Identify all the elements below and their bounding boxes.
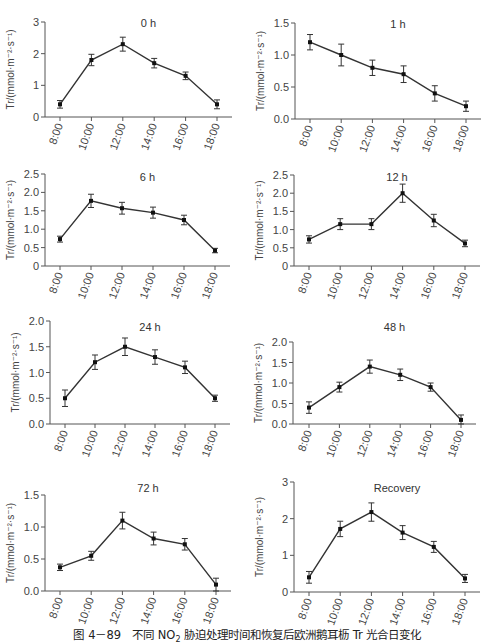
data-line: [60, 201, 215, 251]
x-tick-label: 16:00: [170, 122, 191, 152]
x-tick-label: 18:00: [449, 597, 470, 627]
x-tick-label: 8:00: [295, 271, 314, 295]
y-tick-label: 0.0: [24, 585, 39, 597]
x-tick-label: 10:00: [75, 271, 96, 301]
data-line: [309, 367, 461, 420]
data-point-marker: [459, 418, 463, 422]
x-tick-label: 10:00: [324, 429, 345, 459]
chart-panel: 00.51.01.52.02.5Tr/(mmol·m⁻²·s⁻¹)8:0010:…: [5, 168, 230, 301]
data-line: [309, 193, 465, 243]
y-tick-label: 0.5: [274, 81, 289, 93]
chart-panel: 0.00.51.01.52.0Tr/(mmol·m⁻²·s⁻¹)8:0010:0…: [10, 315, 230, 459]
y-tick-label: 1.0: [24, 223, 39, 235]
x-tick-label: 8:00: [295, 429, 314, 453]
data-point-marker: [63, 396, 67, 400]
y-tick-label: 2.0: [273, 187, 288, 199]
y-tick-label: 1.5: [272, 357, 287, 369]
x-tick-label: 16:00: [169, 596, 190, 626]
data-point-marker: [184, 74, 188, 78]
y-tick-label: 2.5: [273, 169, 288, 181]
data-point-marker: [307, 406, 311, 410]
y-tick-label: 0: [282, 260, 288, 272]
data-line: [310, 42, 466, 106]
x-tick-label: 8:00: [46, 271, 65, 295]
data-point-marker: [215, 102, 219, 106]
data-point-marker: [151, 211, 155, 215]
data-point-marker: [152, 61, 156, 65]
y-tick-label: 3: [33, 16, 39, 28]
y-tick-label: 2.0: [272, 336, 287, 348]
x-tick-label: 14:00: [138, 122, 159, 152]
y-tick-label: 1.0: [274, 49, 289, 61]
y-tick-label: 0: [33, 111, 39, 123]
y-tick-label: 2.5: [24, 168, 39, 180]
data-point-marker: [120, 519, 124, 523]
figure-caption: 图 4－89 不同 NO2 胁迫处理时间和恢复后欧洲鹅耳枥 Tr 光合日变化: [0, 626, 495, 644]
x-tick-label: 14:00: [387, 271, 408, 301]
x-tick-label: 16:00: [415, 429, 436, 459]
x-tick-label: 8:00: [296, 124, 315, 148]
panel-title: 12 h: [386, 171, 407, 183]
x-tick-label: 18:00: [445, 429, 466, 459]
x-tick-label: 14:00: [138, 596, 159, 626]
x-tick-label: 18:00: [201, 122, 222, 152]
data-point-marker: [152, 537, 156, 541]
y-tick-label: 1.5: [273, 205, 288, 217]
y-axis-label: Tr/(mmol·m⁻²·s⁻¹): [10, 332, 21, 412]
panel-title: 6 h: [140, 171, 155, 183]
data-point-marker: [401, 191, 405, 195]
data-point-marker: [183, 542, 187, 546]
data-point-marker: [464, 104, 468, 108]
x-tick-label: 12:00: [356, 271, 377, 301]
y-tick-label: 0.0: [29, 418, 44, 430]
x-tick-label: 12:00: [107, 122, 128, 152]
chart-panel: 0.00.51.01.52.0Tr/(mmol·m⁻²·s⁻¹)8:0010:0…: [253, 321, 476, 459]
panel-title: Recovery: [374, 482, 421, 494]
panel-title: 0 h: [141, 17, 156, 29]
y-tick-label: 0.5: [273, 242, 288, 254]
x-tick-label: 10:00: [325, 124, 346, 154]
y-tick-label: 0: [33, 260, 39, 272]
data-point-marker: [368, 365, 372, 369]
data-point-marker: [89, 199, 93, 203]
data-point-marker: [308, 40, 312, 44]
y-tick-label: 2.0: [24, 186, 39, 198]
x-tick-label: 16:00: [419, 124, 440, 154]
x-tick-label: 16:00: [168, 271, 189, 301]
caption-text-b: 胁迫处理时间和恢复后欧洲鹅耳枥 Tr 光合日变化: [180, 628, 421, 642]
y-tick-label: 0: [282, 586, 288, 598]
data-point-marker: [89, 58, 93, 62]
x-tick-label: 14:00: [137, 271, 158, 301]
x-tick-label: 18:00: [200, 596, 221, 626]
x-tick-label: 12:00: [109, 429, 130, 459]
y-axis-label: Tr/(mmol·m⁻²·s⁻¹): [254, 180, 265, 260]
data-point-marker: [369, 222, 373, 226]
data-point-marker: [307, 237, 311, 241]
data-point-marker: [153, 355, 157, 359]
x-tick-label: 18:00: [449, 271, 470, 301]
y-tick-label: 0.5: [24, 553, 39, 565]
data-point-marker: [338, 222, 342, 226]
data-point-marker: [58, 237, 62, 241]
y-tick-label: 0.0: [274, 113, 289, 125]
x-tick-label: 18:00: [199, 429, 220, 459]
y-tick-label: 1.5: [29, 341, 44, 353]
x-tick-label: 18:00: [450, 124, 471, 154]
panel-title: 72 h: [137, 482, 158, 494]
x-tick-label: 14:00: [387, 597, 408, 627]
data-point-marker: [213, 249, 217, 253]
y-tick-label: 0.5: [24, 242, 39, 254]
y-tick-label: 1.0: [24, 521, 39, 533]
data-point-marker: [429, 385, 433, 389]
x-tick-label: 10:00: [79, 429, 100, 459]
chart-panel: 00.51.01.52.02.5Tr/(mmol·m⁻²·s⁻¹)8:0010:…: [254, 169, 480, 301]
y-tick-label: 1.5: [24, 489, 39, 501]
y-axis-label: Tr/(mmol·m⁻²·s⁻¹): [5, 503, 16, 583]
y-tick-label: 1.0: [272, 377, 287, 389]
data-point-marker: [93, 360, 97, 364]
y-tick-label: 0.5: [29, 392, 44, 404]
y-axis-label: Tr/(mmol·m⁻²·s⁻¹): [5, 180, 16, 260]
data-point-marker: [89, 554, 93, 558]
x-tick-label: 16:00: [418, 271, 439, 301]
x-tick-label: 14:00: [139, 429, 160, 459]
